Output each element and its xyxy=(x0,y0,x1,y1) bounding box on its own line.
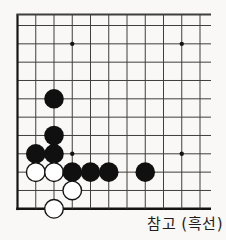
black-stone xyxy=(44,89,64,109)
diagram-caption: 참고 (흑선) xyxy=(147,215,223,234)
star-point xyxy=(70,152,74,156)
black-stone xyxy=(81,162,101,182)
black-stone xyxy=(44,144,64,164)
white-stone xyxy=(45,163,64,182)
go-board xyxy=(0,0,226,240)
white-stone xyxy=(45,200,64,219)
black-stone xyxy=(99,162,119,182)
star-point xyxy=(180,152,184,156)
black-stone xyxy=(26,144,46,164)
star-point xyxy=(180,42,184,46)
black-stone xyxy=(44,126,64,146)
white-stone xyxy=(26,163,45,182)
black-stone xyxy=(135,162,155,182)
white-stone xyxy=(63,181,82,200)
black-stone xyxy=(62,162,82,182)
star-point xyxy=(70,42,74,46)
